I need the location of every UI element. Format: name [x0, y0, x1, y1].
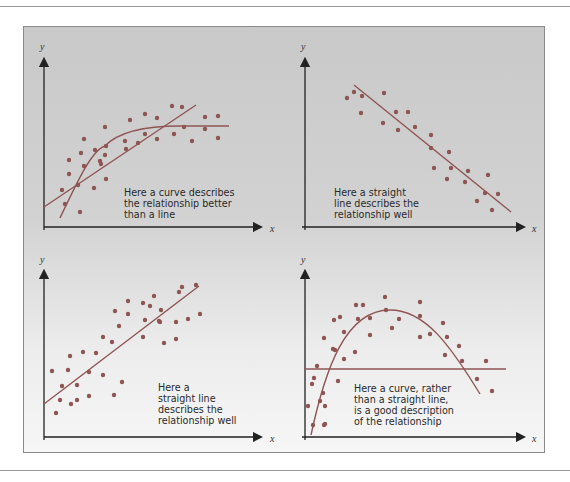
- data-point: [63, 202, 67, 206]
- data-point: [101, 335, 105, 339]
- data-point: [361, 303, 365, 307]
- data-point: [383, 295, 387, 299]
- data-point: [394, 110, 398, 114]
- data-point: [103, 153, 107, 157]
- data-point: [104, 177, 108, 181]
- data-point: [104, 144, 108, 148]
- data-point: [318, 399, 322, 403]
- data-point: [203, 127, 207, 131]
- svg-text:straight line: straight line: [158, 393, 216, 404]
- data-point: [381, 121, 385, 125]
- svg-text:line describes the: line describes the: [334, 198, 419, 209]
- svg-text:Here a curve describes: Here a curve describes: [124, 187, 235, 198]
- data-point: [180, 285, 184, 289]
- data-point: [396, 128, 400, 132]
- svg-text:describes the: describes the: [158, 404, 223, 415]
- data-point: [359, 111, 363, 115]
- data-point: [345, 96, 349, 100]
- data-point: [143, 132, 147, 136]
- data-point: [332, 318, 336, 322]
- data-point: [447, 150, 451, 154]
- svg-text:than a line: than a line: [124, 209, 175, 220]
- data-point: [120, 380, 124, 384]
- data-point: [443, 353, 447, 357]
- data-point: [429, 146, 433, 150]
- svg-text:x: x: [531, 223, 537, 234]
- data-point: [475, 199, 479, 203]
- data-point: [93, 148, 97, 152]
- svg-text:of the relationship: of the relationship: [354, 416, 441, 427]
- data-point: [67, 172, 71, 176]
- data-point: [155, 137, 159, 141]
- scatter-points: [50, 90, 500, 427]
- data-point: [68, 354, 72, 358]
- data-point: [397, 317, 401, 321]
- data-point: [190, 139, 194, 143]
- data-point: [406, 110, 410, 114]
- data-point: [60, 384, 64, 388]
- svg-text:x: x: [269, 433, 275, 444]
- data-point: [310, 382, 314, 386]
- data-point: [76, 183, 80, 187]
- data-point: [79, 151, 83, 155]
- data-point: [158, 320, 162, 324]
- data-point: [354, 303, 358, 307]
- data-point: [323, 404, 327, 408]
- data-point: [92, 186, 96, 190]
- data-point: [124, 147, 128, 151]
- data-point: [50, 369, 54, 373]
- svg-text:is a good description: is a good description: [354, 405, 454, 416]
- captions: Here a curve describes the relationship …: [124, 187, 454, 427]
- data-point: [483, 191, 487, 195]
- data-point: [496, 192, 500, 196]
- svg-text:y: y: [300, 254, 306, 265]
- data-point: [94, 351, 98, 355]
- data-point: [113, 309, 117, 313]
- data-point: [117, 324, 121, 328]
- data-point: [441, 321, 445, 325]
- data-point: [174, 337, 178, 341]
- data-point: [78, 210, 82, 214]
- data-point: [159, 308, 163, 312]
- data-point: [60, 188, 64, 192]
- data-point: [445, 335, 449, 339]
- data-point: [432, 166, 436, 170]
- data-point: [413, 125, 417, 129]
- svg-text:Here a: Here a: [158, 382, 190, 393]
- data-point: [87, 370, 91, 374]
- data-point: [428, 332, 432, 336]
- data-point: [311, 423, 315, 427]
- svg-text:than a straight line,: than a straight line,: [354, 394, 448, 405]
- svg-text:y: y: [300, 41, 306, 52]
- data-point: [338, 315, 342, 319]
- data-point: [198, 312, 202, 316]
- svg-text:y: y: [39, 254, 45, 265]
- data-point: [75, 398, 79, 402]
- data-point: [152, 294, 156, 298]
- data-point: [87, 394, 91, 398]
- data-point: [136, 141, 140, 145]
- data-point: [384, 308, 388, 312]
- svg-text:Here a curve, rather: Here a curve, rather: [354, 383, 451, 394]
- data-point: [321, 391, 325, 395]
- svg-text:relationship well: relationship well: [334, 209, 413, 220]
- svg-text:relationship well: relationship well: [158, 415, 237, 426]
- data-point: [69, 402, 73, 406]
- data-point: [103, 125, 107, 129]
- data-point: [172, 132, 176, 136]
- data-point: [418, 314, 422, 318]
- data-point: [368, 316, 372, 320]
- data-point: [98, 159, 102, 163]
- data-point: [148, 304, 152, 308]
- svg-text:the relationship better: the relationship better: [124, 198, 232, 209]
- data-point: [82, 137, 86, 141]
- data-point: [123, 139, 127, 143]
- data-point: [449, 166, 453, 170]
- data-point: [143, 112, 147, 116]
- data-point: [475, 377, 479, 381]
- data-point: [312, 376, 316, 380]
- data-point: [333, 348, 337, 352]
- data-point: [194, 283, 198, 287]
- data-point: [75, 383, 79, 387]
- data-point: [323, 422, 327, 426]
